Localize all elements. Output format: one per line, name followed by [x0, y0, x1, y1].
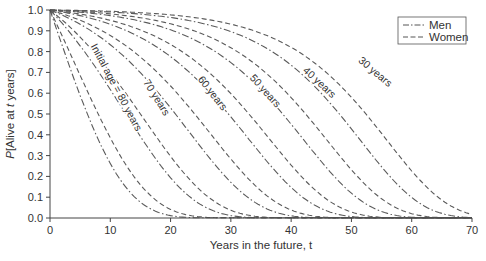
y-axis-ticks: 0.00.10.20.30.40.50.60.70.80.91.0: [28, 4, 50, 224]
x-tick-label: 40: [285, 224, 297, 236]
curve-label: 50 years: [248, 72, 284, 110]
y-axis-title-rest: [Alive at: [4, 107, 16, 151]
y-axis: 0.00.10.20.30.40.50.60.70.80.91.0 P[Aliv…: [4, 4, 50, 224]
y-tick-label: 0.2: [28, 170, 43, 182]
x-tick-label: 50: [345, 224, 357, 236]
x-axis: 010203040506070 Years in the future, t: [47, 218, 478, 251]
legend: Men Women: [398, 17, 468, 44]
x-tick-label: 0: [47, 224, 53, 236]
legend-women-label: Women: [429, 31, 468, 43]
legend-men-label: Men: [429, 19, 451, 31]
y-axis-title: P[Alive at t years]: [4, 69, 16, 159]
x-tick-label: 20: [164, 224, 176, 236]
x-tick-label: 10: [104, 224, 116, 236]
y-tick-label: 0.3: [28, 150, 43, 162]
y-tick-label: 0.1: [28, 191, 43, 203]
x-axis-title: Years in the future, t: [210, 239, 313, 251]
curve-labels: Initial age = 80 yearsInitial age = 80 y…: [89, 41, 395, 132]
x-tick-label: 60: [406, 224, 418, 236]
curve-label: 60 years: [196, 73, 230, 112]
survival-chart: Initial age = 80 yearsInitial age = 80 y…: [0, 0, 486, 261]
curve-label: Initial age = 80 years: [89, 41, 145, 132]
y-tick-label: 0.6: [28, 87, 43, 99]
y-tick-label: 0.8: [28, 46, 43, 58]
y-tick-label: 1.0: [28, 4, 43, 16]
y-tick-label: 0.9: [28, 25, 43, 37]
curve-label: 40 years: [301, 64, 339, 100]
y-axis-title-end: years]: [4, 69, 16, 104]
x-axis-ticks: 010203040506070: [47, 218, 478, 236]
x-tick-label: 70: [466, 224, 478, 236]
y-tick-label: 0.0: [28, 212, 43, 224]
y-tick-label: 0.5: [28, 108, 43, 120]
y-tick-label: 0.7: [28, 66, 43, 78]
x-tick-label: 30: [225, 224, 237, 236]
y-tick-label: 0.4: [28, 129, 43, 141]
curve-label: 30 years: [356, 54, 395, 89]
